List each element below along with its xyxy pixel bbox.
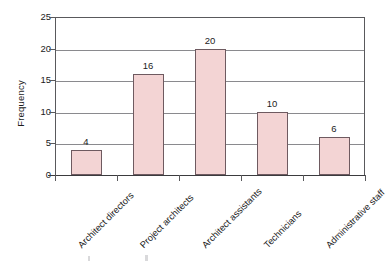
scan-artifact — [88, 256, 90, 261]
bar — [195, 49, 226, 175]
x-tick-mark — [117, 175, 118, 181]
bar — [71, 150, 102, 175]
x-tick-mark — [179, 175, 180, 181]
bar-value-label: 10 — [241, 98, 303, 109]
x-tick-mark — [55, 175, 56, 181]
bars-layer: 41620106 — [55, 17, 365, 175]
bar-slot: 20 — [179, 17, 241, 175]
x-category-label: Architect assistants — [200, 186, 264, 250]
x-category-label: Project architects — [138, 193, 195, 250]
bar — [133, 74, 164, 175]
x-category-label: Architect directors — [76, 190, 136, 250]
bar-value-label: 4 — [55, 136, 117, 147]
bar-slot: 10 — [241, 17, 303, 175]
x-category-label: Technicians — [262, 209, 303, 250]
x-tick-mark — [241, 175, 242, 181]
y-tick-label: 5 — [31, 138, 51, 148]
y-tick-label: 10 — [31, 107, 51, 117]
bar-value-label: 20 — [179, 35, 241, 46]
bar-slot: 6 — [303, 17, 365, 175]
bar-slot: 16 — [117, 17, 179, 175]
y-tick-label: 20 — [31, 44, 51, 54]
bar-value-label: 6 — [303, 123, 365, 134]
y-tick-label: 25 — [31, 12, 51, 22]
bar-slot: 4 — [55, 17, 117, 175]
y-axis-tick-labels: 0510152025 — [27, 0, 51, 273]
y-tick-label: 15 — [31, 75, 51, 85]
bar — [257, 112, 288, 175]
scan-artifact — [145, 255, 148, 261]
x-tick-mark — [365, 175, 366, 181]
x-axis-line — [48, 175, 366, 176]
x-tick-mark — [303, 175, 304, 181]
bar — [319, 137, 350, 175]
y-axis-title: Frequency — [12, 58, 28, 148]
y-axis-title-text: Frequency — [15, 80, 26, 127]
bar-value-label: 16 — [117, 60, 179, 71]
x-category-label: Administrative staff — [324, 188, 386, 250]
